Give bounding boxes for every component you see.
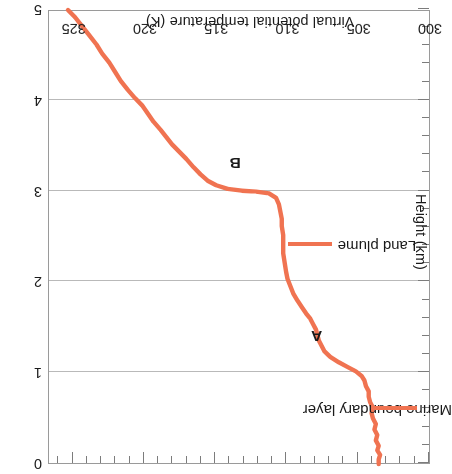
temperature-tick-label: 325	[44, 21, 104, 37]
chart-figure: Virtual potential temperature (K) Height…	[0, 0, 452, 474]
annotation-leader-marine-boundary-layer	[373, 406, 417, 410]
temperature-tick-label: 305	[329, 21, 389, 37]
annotation-land-plume: Land plume	[338, 238, 452, 255]
y-axis-title: Height (km)	[413, 172, 429, 292]
curve-point-label-a: A	[311, 327, 322, 345]
x-axis-title: Virtual potential temperature (K)	[48, 14, 452, 30]
height-tick-label: 1	[20, 363, 42, 383]
annotation-marine-boundary-layer: Marine boundary layer	[423, 402, 452, 419]
temperature-tick-label: 310	[258, 21, 318, 37]
height-tick-label: 5	[20, 0, 42, 20]
height-tick-label: 0	[20, 454, 42, 474]
height-tick-label: 4	[20, 91, 42, 111]
temperature-tick-label: 315	[186, 21, 246, 37]
sounding-curve	[48, 10, 430, 464]
height-major-tick	[418, 8, 429, 9]
height-tick-label: 3	[20, 182, 42, 202]
curve-point-label-b: B	[229, 154, 240, 172]
height-tick-label: 2	[20, 272, 42, 292]
temperature-tick-label: 320	[115, 21, 175, 37]
temperature-tick-label: 300	[400, 21, 452, 37]
annotation-leader-land-plume	[288, 242, 332, 246]
virtual-potential-temperature-path	[68, 10, 380, 464]
